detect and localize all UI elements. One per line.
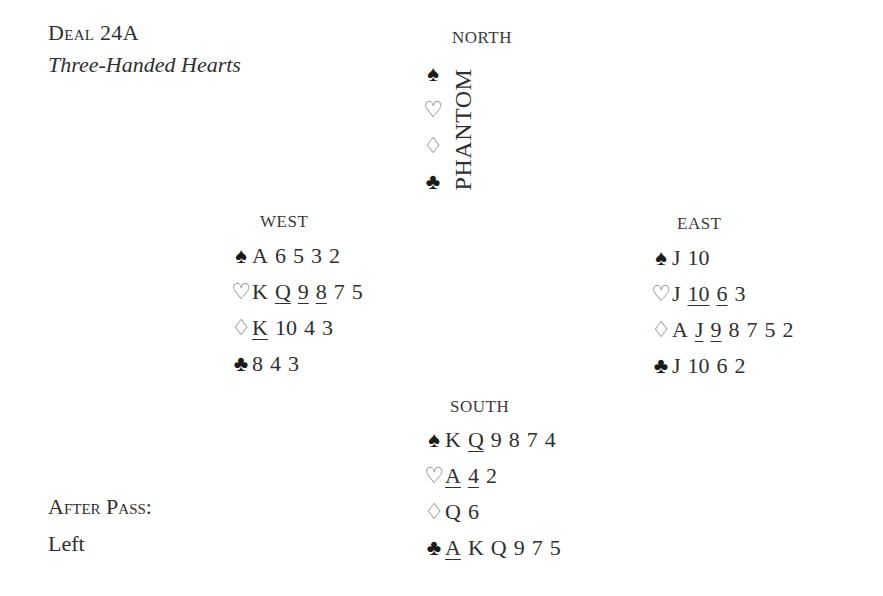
east-hearts-holding: ♡J1063 <box>650 276 800 312</box>
north-label: NORTH <box>452 28 512 48</box>
card: 4 <box>468 458 479 494</box>
spade-icon: ♠ <box>650 240 672 276</box>
card: Q <box>445 494 461 530</box>
west-diamonds-holding: ♢K1043 <box>230 310 370 346</box>
card: Q <box>275 274 291 310</box>
south-clubs-holding: ♣AKQ975 <box>423 530 568 566</box>
east-hand: ♠J10♡J1063♢AJ98752♣J1062 <box>650 240 800 384</box>
west-spades-holding: ♠A6532 <box>230 238 370 274</box>
card: 8 <box>252 346 263 382</box>
card: 8 <box>316 274 327 310</box>
card: A <box>445 530 461 566</box>
card: 7 <box>527 422 538 458</box>
card: 3 <box>735 276 746 312</box>
diamond-icon: ♢ <box>423 494 445 530</box>
card: 5 <box>293 238 304 274</box>
card: 6 <box>275 238 286 274</box>
card: 10 <box>275 310 297 346</box>
diamond-icon: ♢ <box>230 310 252 346</box>
card: 6 <box>717 348 728 384</box>
card: 5 <box>550 530 561 566</box>
card: 9 <box>514 530 525 566</box>
card: A <box>445 458 461 494</box>
deal-subtitle: Three-Handed Hearts <box>48 52 241 78</box>
card: 3 <box>288 346 299 382</box>
card: 4 <box>270 346 281 382</box>
card: K <box>252 310 268 346</box>
south-hand: ♠KQ9874♡A42♢Q6♣AKQ975 <box>423 422 568 566</box>
card: K <box>252 274 268 310</box>
diamond-icon: ♢ <box>422 128 444 164</box>
card: 7 <box>334 274 345 310</box>
card: 2 <box>782 312 793 348</box>
card: 2 <box>486 458 497 494</box>
south-hearts-holding: ♡A42 <box>423 458 568 494</box>
card: 7 <box>746 312 757 348</box>
card: 10 <box>688 240 710 276</box>
spade-icon: ♠ <box>422 56 444 92</box>
card: 3 <box>322 310 333 346</box>
card: 6 <box>468 494 479 530</box>
card: 5 <box>764 312 775 348</box>
card: 8 <box>509 422 520 458</box>
card: K <box>468 530 484 566</box>
card: 9 <box>710 312 721 348</box>
heart-icon: ♡ <box>230 274 252 310</box>
card: 8 <box>728 312 739 348</box>
east-label: EAST <box>677 214 722 234</box>
club-icon: ♣ <box>422 164 444 200</box>
card: 5 <box>352 274 363 310</box>
diamond-icon: ♢ <box>650 312 672 348</box>
card: 10 <box>688 276 710 312</box>
spade-icon: ♠ <box>230 238 252 274</box>
north-player-name: PHANTOM <box>450 55 477 205</box>
card: J <box>672 240 681 276</box>
card: 2 <box>329 238 340 274</box>
spade-icon: ♠ <box>423 422 445 458</box>
heart-icon: ♡ <box>422 92 444 128</box>
card: 9 <box>491 422 502 458</box>
south-label: SOUTH <box>450 397 509 417</box>
east-clubs-holding: ♣J1062 <box>650 348 800 384</box>
card: 4 <box>545 422 556 458</box>
heart-icon: ♡ <box>650 276 672 312</box>
east-diamonds-holding: ♢AJ98752 <box>650 312 800 348</box>
card: A <box>672 312 688 348</box>
card: 2 <box>735 348 746 384</box>
card: A <box>252 238 268 274</box>
west-label: WEST <box>260 212 308 232</box>
card: 7 <box>532 530 543 566</box>
deal-title: Deal 24A <box>48 20 139 46</box>
card: 4 <box>304 310 315 346</box>
card: 9 <box>298 274 309 310</box>
card: J <box>672 348 681 384</box>
club-icon: ♣ <box>423 530 445 566</box>
card: K <box>445 422 461 458</box>
card: J <box>695 312 704 348</box>
north-hand: ♠ ♡ ♢ ♣ <box>422 56 444 200</box>
card: J <box>672 276 681 312</box>
club-icon: ♣ <box>230 346 252 382</box>
after-pass-label: After Pass: <box>48 494 152 520</box>
west-clubs-holding: ♣843 <box>230 346 370 382</box>
heart-icon: ♡ <box>423 458 445 494</box>
after-pass-value: Left <box>48 531 85 557</box>
card: Q <box>468 422 484 458</box>
south-spades-holding: ♠KQ9874 <box>423 422 568 458</box>
west-hearts-holding: ♡KQ9875 <box>230 274 370 310</box>
card: 6 <box>717 276 728 312</box>
card: 10 <box>688 348 710 384</box>
west-hand: ♠A6532♡KQ9875♢K1043♣843 <box>230 238 370 382</box>
card: 3 <box>311 238 322 274</box>
east-spades-holding: ♠J10 <box>650 240 800 276</box>
club-icon: ♣ <box>650 348 672 384</box>
south-diamonds-holding: ♢Q6 <box>423 494 568 530</box>
card: Q <box>491 530 507 566</box>
